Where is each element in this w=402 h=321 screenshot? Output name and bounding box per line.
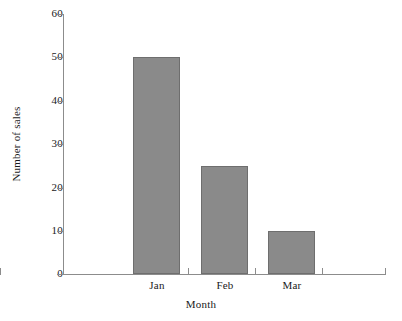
x-tick-4 bbox=[322, 268, 323, 275]
y-tick-10: 10 bbox=[22, 231, 63, 232]
y-tick-mark-50 bbox=[57, 57, 63, 58]
bar-feb bbox=[201, 166, 248, 274]
y-tick-30: 30 bbox=[22, 144, 63, 145]
y-tick-mark-60 bbox=[57, 14, 63, 15]
y-tick-20: 20 bbox=[22, 188, 63, 189]
y-tick-50: 50 bbox=[22, 57, 63, 58]
x-tick-start bbox=[63, 268, 64, 275]
x-tick-2 bbox=[188, 268, 189, 275]
bar-jan bbox=[133, 57, 180, 274]
x-category-label-mar: Mar bbox=[266, 279, 318, 291]
bar-mar bbox=[268, 231, 315, 274]
y-tick-mark-20 bbox=[57, 188, 63, 189]
y-tick-0: 0 bbox=[22, 274, 63, 275]
caption-strip bbox=[0, 313, 402, 321]
x-tick-end bbox=[385, 268, 386, 275]
y-axis-title: Number of sales bbox=[10, 84, 22, 204]
x-axis-title: Month bbox=[0, 298, 402, 310]
x-category-label-jan: Jan bbox=[131, 279, 183, 291]
y-tick-mark-40 bbox=[57, 101, 63, 102]
y-tick-40: 40 bbox=[22, 101, 63, 102]
y-tick-mark-10 bbox=[57, 231, 63, 232]
x-axis-line bbox=[63, 274, 386, 275]
y-tick-60: 60 bbox=[22, 14, 63, 15]
y-tick-mark-30 bbox=[57, 144, 63, 145]
x-tick-3 bbox=[255, 268, 256, 275]
x-tick-1 bbox=[0, 268, 1, 275]
y-axis-line bbox=[63, 14, 64, 275]
x-category-label-feb: Feb bbox=[199, 279, 251, 291]
plot-area: 60 50 40 30 20 10 0 bbox=[0, 0, 402, 321]
bar-chart-figure: 60 50 40 30 20 10 0 bbox=[0, 0, 402, 321]
